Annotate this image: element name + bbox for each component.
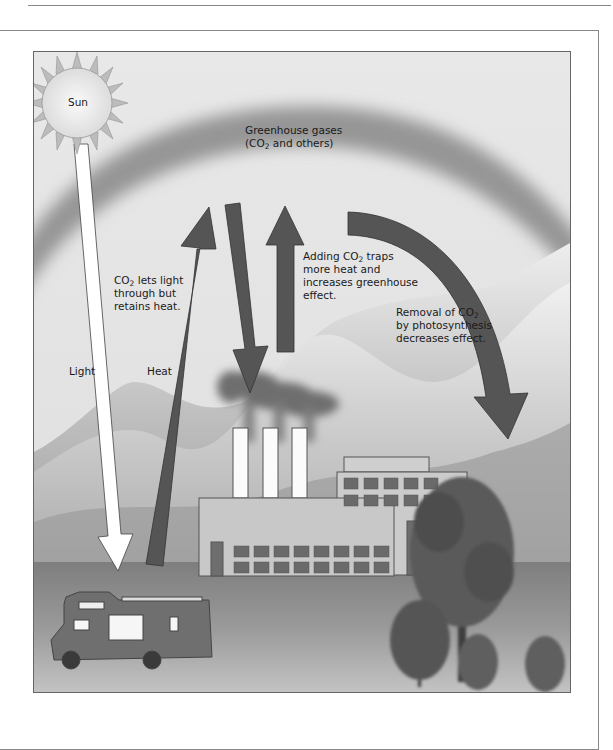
greenhouse-diagram: Sun Greenhouse gases (CO2 and others) CO… — [33, 51, 571, 693]
adding-line1: Adding CO2 traps — [303, 250, 418, 263]
motorhome — [51, 592, 212, 669]
removal-line1: Removal of CO2 — [396, 306, 492, 319]
text: (CO — [245, 137, 265, 149]
text: and others) — [269, 137, 333, 149]
top-rule — [28, 5, 611, 6]
light-label: Light — [69, 365, 95, 378]
co2-line1: CO2 lets light — [114, 274, 183, 287]
text: Removal of CO — [396, 306, 474, 318]
adding-co2-label: Adding CO2 traps more heat and increases… — [303, 250, 418, 302]
adding-line4: effect. — [303, 289, 418, 302]
removal-co2-label: Removal of CO2 by photosynthesis decreas… — [396, 306, 492, 345]
greenhouse-gases-label: Greenhouse gases (CO2 and others) — [245, 124, 342, 150]
text: Adding CO — [303, 250, 359, 262]
adding-line3: increases greenhouse — [303, 276, 418, 289]
sun-label: Sun — [68, 96, 88, 109]
removal-line2: by photosynthesis — [396, 319, 492, 332]
greenhouse-gases-line2: (CO2 and others) — [245, 137, 342, 150]
greenhouse-gases-line1: Greenhouse gases — [245, 124, 342, 137]
co2-lets-light-label: CO2 lets light through but retains heat. — [114, 274, 183, 313]
factory-chimneys — [233, 428, 307, 498]
co2-line3: retains heat. — [114, 300, 183, 313]
text: lets light — [134, 274, 183, 286]
text: traps — [363, 250, 393, 262]
adding-line2: more heat and — [303, 263, 418, 276]
heat-label: Heat — [147, 365, 172, 378]
co2-line2: through but — [114, 287, 183, 300]
text: CO — [114, 274, 130, 286]
removal-line3: decreases effect. — [396, 332, 492, 345]
